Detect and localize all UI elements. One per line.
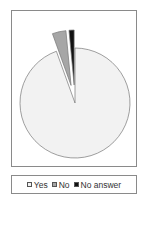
pie-slice-yes [20, 48, 130, 158]
legend-label-yes: Yes [34, 180, 48, 190]
legend-swatch-yes [27, 182, 32, 187]
legend-label-no: No [59, 180, 70, 190]
legend-swatch-no-answer [74, 182, 79, 187]
legend-item-no: No [52, 180, 70, 190]
legend-item-no-answer: No answer [74, 180, 122, 190]
legend-swatch-no [52, 182, 57, 187]
legend-item-yes: Yes [27, 180, 48, 190]
legend-label-no-answer: No answer [81, 180, 122, 190]
legend: Yes No No answer [11, 175, 137, 194]
